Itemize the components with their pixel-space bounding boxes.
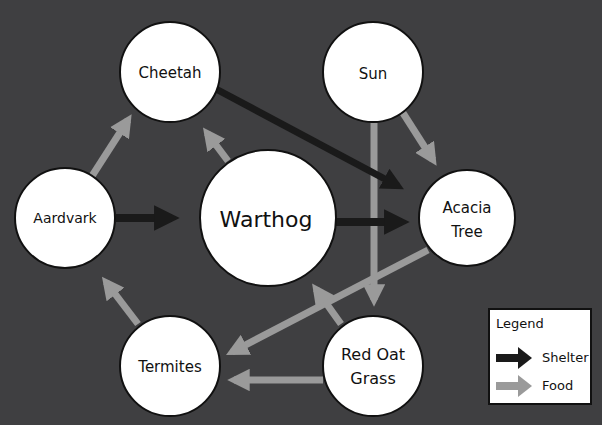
legend-label-shelter: Shelter — [542, 350, 589, 365]
food-arrow-icon — [496, 374, 536, 398]
legend-label-food: Food — [542, 378, 573, 393]
edge-termites-to-aardvark — [106, 282, 138, 324]
node-acacia-tree: Acacia Tree — [419, 170, 515, 266]
node-label-acacia-line2: Tree — [450, 223, 482, 241]
node-label-redoat-line2: Grass — [350, 369, 395, 388]
food-web-diagram: Cheetah Sun Aardvark Warthog Acacia Tree… — [0, 0, 602, 425]
node-label-termites: Termites — [137, 358, 202, 376]
node-sun: Sun — [323, 22, 423, 122]
edge-sun-to-acacia — [403, 113, 433, 160]
edge-aardvark-to-cheetah — [92, 120, 128, 176]
legend-item-shelter: Shelter — [496, 346, 592, 370]
node-cheetah: Cheetah — [120, 22, 220, 122]
node-label-cheetah: Cheetah — [138, 64, 201, 82]
node-red-oat-grass: Red Oat Grass — [323, 316, 423, 416]
node-warthog: Warthog — [200, 150, 336, 286]
legend-box: Legend Shelter Food — [488, 308, 592, 405]
legend-title: Legend — [496, 316, 544, 331]
node-label-warthog: Warthog — [220, 207, 313, 232]
edge-warthog-to-cheetah — [207, 133, 228, 161]
legend-item-food: Food — [496, 374, 592, 398]
node-label-aardvark: Aardvark — [33, 210, 97, 226]
node-label-sun: Sun — [359, 65, 388, 83]
node-label-acacia-line1: Acacia — [442, 199, 491, 217]
node-label-redoat-line1: Red Oat — [341, 345, 405, 364]
shelter-arrow-icon — [496, 346, 536, 370]
node-termites: Termites — [120, 316, 220, 416]
node-aardvark: Aardvark — [15, 168, 115, 268]
